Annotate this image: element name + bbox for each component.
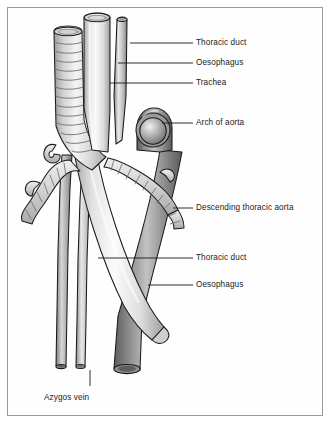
thoracic-duct-upper-structure (114, 17, 127, 144)
arch-of-aorta-structure (136, 108, 172, 152)
label-thoracic-duct-upper: Thoracic duct (196, 38, 246, 48)
label-thoracic-duct-lower: Thoracic duct (196, 253, 246, 263)
anatomy-figure: Thoracic ductOesophagusTracheaArch of ao… (0, 0, 332, 425)
azygos-vein-structure (56, 155, 72, 369)
label-azygos-vein: Azygos vein (44, 393, 89, 403)
label-arch-of-aorta: Arch of aorta (196, 118, 244, 128)
label-oesophagus-upper: Oesophagus (196, 58, 243, 68)
label-trachea: Trachea (196, 78, 226, 88)
oesophagus-upper-structure (84, 13, 110, 152)
label-descending-thoracic-aorta: Descending thoracic aorta (196, 203, 294, 213)
label-oesophagus-lower: Oesophagus (196, 280, 243, 290)
